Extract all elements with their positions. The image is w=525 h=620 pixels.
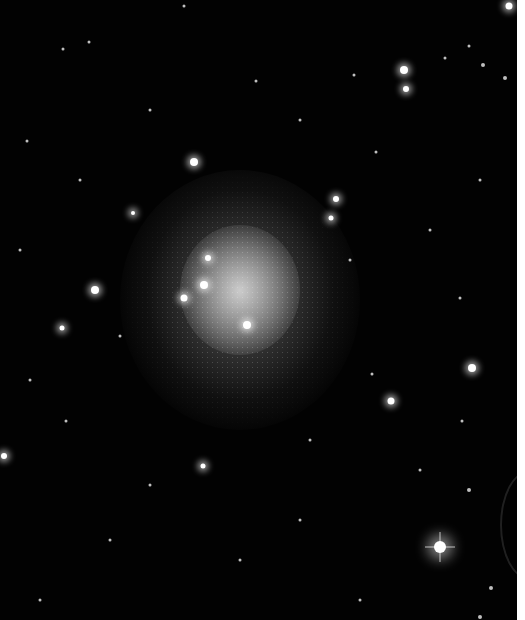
star — [201, 464, 206, 469]
star — [19, 249, 22, 252]
star — [79, 179, 82, 182]
star — [1, 453, 7, 459]
star — [371, 373, 374, 376]
star — [299, 519, 302, 522]
star — [329, 216, 334, 221]
star — [481, 63, 485, 67]
night-sky-background — [0, 0, 517, 620]
star — [88, 41, 91, 44]
star — [444, 57, 447, 60]
star — [459, 297, 462, 300]
star — [353, 74, 356, 77]
image-frame — [0, 0, 525, 620]
star — [131, 211, 135, 215]
star — [243, 321, 251, 329]
star — [388, 398, 395, 405]
star — [468, 364, 476, 372]
star — [149, 484, 152, 487]
star — [149, 109, 152, 112]
star — [467, 488, 471, 492]
star — [65, 420, 68, 423]
star — [109, 539, 112, 542]
star — [29, 379, 32, 382]
lens-reflection-ghost — [500, 470, 517, 580]
star — [62, 48, 65, 51]
star — [333, 196, 339, 202]
star — [39, 599, 42, 602]
star — [503, 76, 507, 80]
star — [403, 86, 409, 92]
star — [309, 439, 312, 442]
star — [489, 586, 493, 590]
star — [478, 615, 482, 619]
star — [181, 295, 188, 302]
star — [91, 286, 99, 294]
star — [119, 335, 122, 338]
star — [60, 326, 65, 331]
star — [205, 255, 211, 261]
star — [419, 469, 422, 472]
star — [479, 179, 482, 182]
star — [400, 66, 408, 74]
star — [461, 420, 464, 423]
star — [429, 229, 432, 232]
star — [506, 3, 513, 10]
star — [183, 5, 186, 8]
star — [26, 140, 29, 143]
star — [200, 281, 208, 289]
star — [375, 151, 378, 154]
diffraction-spike-vertical — [440, 532, 441, 562]
star — [190, 158, 198, 166]
galaxy-star-grain — [120, 170, 360, 430]
star — [299, 119, 302, 122]
star — [468, 45, 471, 48]
star — [359, 599, 362, 602]
star — [239, 559, 242, 562]
star — [349, 259, 352, 262]
star — [255, 80, 258, 83]
